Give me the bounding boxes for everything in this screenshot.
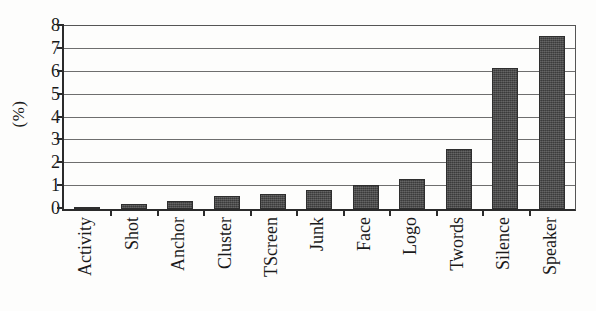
y-axis-tick-labels: 012345678 bbox=[32, 0, 60, 311]
x-axis-category-label-text: Cluster bbox=[216, 217, 234, 269]
plot-area bbox=[62, 25, 576, 211]
bar bbox=[353, 185, 379, 209]
x-axis-category-label-text: Shot bbox=[123, 217, 141, 250]
y-axis-tick-label: 0 bbox=[32, 199, 60, 217]
bar bbox=[121, 204, 147, 209]
x-axis-category-label-text: Speaker bbox=[541, 217, 559, 275]
y-axis-tick-mark bbox=[57, 24, 64, 26]
x-axis-category-label: Junk bbox=[294, 213, 340, 311]
x-axis-category-label: Cluster bbox=[201, 213, 247, 311]
bar-chart-figure: (%) 012345678 ActivityShotAnchorClusterT… bbox=[0, 0, 596, 311]
x-axis-category-label-text: Face bbox=[355, 217, 373, 251]
x-axis-category-label: Activity bbox=[62, 213, 108, 311]
x-axis-category-label: Face bbox=[341, 213, 387, 311]
x-axis-category-label: TScreen bbox=[248, 213, 294, 311]
y-axis-tick-mark bbox=[57, 93, 64, 95]
y-axis-tick-mark bbox=[57, 138, 64, 140]
y-axis-tick-mark bbox=[57, 207, 64, 209]
y-axis-tick-mark bbox=[57, 116, 64, 118]
bar bbox=[446, 149, 472, 209]
y-axis-tick-label: 4 bbox=[32, 108, 60, 126]
y-axis-tick-label: 3 bbox=[32, 130, 60, 148]
bar bbox=[492, 68, 518, 209]
y-axis-tick-mark bbox=[57, 184, 64, 186]
x-axis-category-label: Logo bbox=[387, 213, 433, 311]
x-axis-category-label: Speaker bbox=[527, 213, 573, 311]
x-axis-category-label-text: Anchor bbox=[169, 217, 187, 271]
x-axis-category-labels: ActivityShotAnchorClusterTScreenJunkFace… bbox=[62, 213, 573, 311]
bar bbox=[539, 36, 565, 209]
y-axis-title: (%) bbox=[2, 88, 36, 140]
x-axis-category-label-text: Junk bbox=[308, 217, 326, 251]
y-axis-tick-label: 5 bbox=[32, 85, 60, 103]
x-axis-category-label-text: Twords bbox=[448, 217, 466, 271]
x-axis-category-label: Shot bbox=[108, 213, 154, 311]
y-axis-tick-label: 2 bbox=[32, 153, 60, 171]
bar bbox=[306, 190, 332, 209]
bar bbox=[167, 201, 193, 209]
x-axis-category-label: Twords bbox=[434, 213, 480, 311]
x-axis-category-label-text: Silence bbox=[494, 217, 512, 270]
x-axis-category-label-text: Activity bbox=[76, 217, 94, 276]
y-axis-tick-mark bbox=[57, 161, 64, 163]
bar-series bbox=[64, 26, 575, 209]
x-axis-category-label: Silence bbox=[480, 213, 526, 311]
y-axis-title-text: (%) bbox=[9, 101, 29, 128]
y-axis-tick-label: 6 bbox=[32, 62, 60, 80]
y-axis-tick-mark bbox=[57, 47, 64, 49]
bar bbox=[74, 207, 100, 209]
bar bbox=[214, 196, 240, 209]
y-axis-tick-label: 8 bbox=[32, 16, 60, 34]
x-axis-category-label-text: TScreen bbox=[262, 217, 280, 277]
y-axis-tick-mark bbox=[57, 70, 64, 72]
x-axis-category-label-text: Logo bbox=[401, 217, 419, 255]
x-axis-category-label: Anchor bbox=[155, 213, 201, 311]
y-axis-tick-label: 1 bbox=[32, 176, 60, 194]
y-axis-tick-label: 7 bbox=[32, 39, 60, 57]
bar bbox=[399, 179, 425, 209]
bar bbox=[260, 194, 286, 209]
